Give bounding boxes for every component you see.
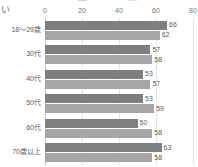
category-label: 30代 bbox=[26, 49, 41, 59]
bar-value-label: 53 bbox=[145, 94, 153, 103]
bar-group: 6358 bbox=[45, 143, 193, 162]
bar-value-label: 53 bbox=[145, 69, 153, 78]
bar-value-label: 66 bbox=[169, 20, 177, 29]
gridline bbox=[193, 18, 194, 165]
bar-group: 6662 bbox=[45, 21, 193, 40]
bar-group: 5058 bbox=[45, 119, 193, 138]
legend-swatch bbox=[78, 0, 87, 1]
bar bbox=[45, 31, 160, 40]
x-tick-label: 40 bbox=[115, 6, 123, 16]
bar bbox=[45, 104, 154, 113]
bar-value-label: 63 bbox=[164, 143, 172, 152]
horizontal-bar-chart: い 020406080 18〜29歳30代40代50代60代70歳以上 6662… bbox=[0, 0, 198, 167]
x-axis-tick-labels: 020406080 bbox=[0, 6, 198, 17]
category-label: 50代 bbox=[26, 98, 41, 108]
x-tick-label: 0 bbox=[43, 6, 47, 16]
bar-value-label: 58 bbox=[154, 55, 162, 64]
bar-value-label: 62 bbox=[162, 30, 170, 39]
x-tick-label: 80 bbox=[189, 6, 197, 16]
bar-value-label: 57 bbox=[152, 79, 160, 88]
bar bbox=[45, 70, 143, 79]
category-label: 18〜29歳 bbox=[11, 25, 41, 35]
x-tick-label: 60 bbox=[152, 6, 160, 16]
bar bbox=[45, 80, 150, 89]
bar bbox=[45, 119, 138, 128]
bar bbox=[45, 55, 152, 64]
legend-swatch bbox=[128, 0, 137, 1]
bar bbox=[45, 143, 162, 152]
bar bbox=[45, 153, 152, 162]
category-label: 70歳以上 bbox=[12, 147, 41, 157]
bar-value-label: 58 bbox=[154, 153, 162, 162]
category-label: 40代 bbox=[26, 74, 41, 84]
bar-value-label: 57 bbox=[152, 45, 160, 54]
category-axis-labels: 18〜29歳30代40代50代60代70歳以上 bbox=[0, 18, 43, 165]
bar-group: 5357 bbox=[45, 70, 193, 89]
bar-value-label: 58 bbox=[154, 128, 162, 137]
bar-group: 5758 bbox=[45, 45, 193, 64]
bar-value-label: 59 bbox=[156, 104, 164, 113]
category-label: 60代 bbox=[26, 123, 41, 133]
chart-legend bbox=[0, 0, 198, 5]
bar bbox=[45, 94, 143, 103]
bar bbox=[45, 21, 167, 30]
bar bbox=[45, 45, 150, 54]
bar-value-label: 50 bbox=[140, 118, 148, 127]
bar-group: 5359 bbox=[45, 94, 193, 113]
x-tick-label: 20 bbox=[78, 6, 86, 16]
bar bbox=[45, 129, 152, 138]
plot-area: 666257585357535950586358 bbox=[45, 18, 193, 165]
